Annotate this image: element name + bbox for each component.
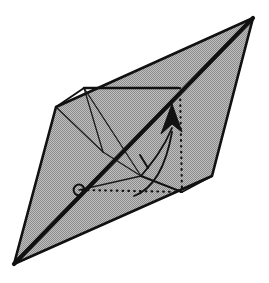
geometric-figure: Rotation axis diagram of a bipyramidal p… — [0, 0, 269, 283]
figure-container: Rotation axis diagram of a bipyramidal p… — [0, 0, 269, 283]
